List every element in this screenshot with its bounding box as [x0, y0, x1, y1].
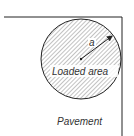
pavement-label: Pavement [57, 116, 103, 127]
loaded-area-label: Loaded area [52, 66, 109, 77]
pavement-corner-diagram: a Loaded area Pavement [0, 0, 134, 136]
radius-label: a [89, 37, 95, 48]
